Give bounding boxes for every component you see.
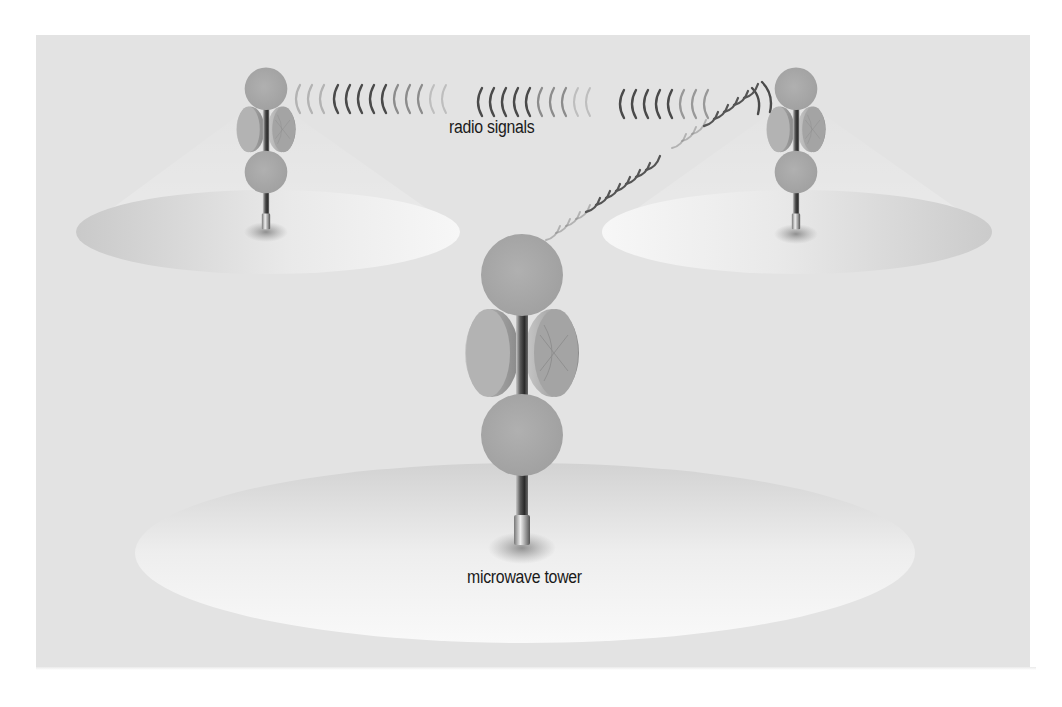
microwave-tower-label: microwave tower bbox=[467, 567, 582, 588]
radio-signals-label: radio signals bbox=[449, 117, 535, 138]
radio-signal-arcs-horizontal bbox=[296, 82, 771, 118]
network-diagram bbox=[0, 0, 1062, 707]
